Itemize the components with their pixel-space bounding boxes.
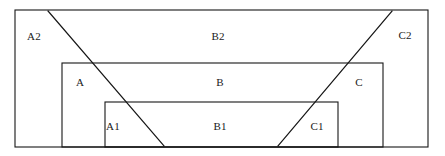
- right-diagonal-line: [278, 11, 392, 146]
- region-label-a1: A1: [106, 121, 120, 132]
- region-label-b: B: [216, 77, 224, 88]
- region-label-a: A: [76, 77, 84, 88]
- region-label-b2: B2: [211, 31, 224, 42]
- region-label-a2: A2: [27, 31, 41, 42]
- region-label-c2: C2: [398, 30, 411, 41]
- diagram-canvas: A2 B2 C2 A B C A1 B1 C1: [0, 0, 445, 156]
- region-label-b1: B1: [213, 121, 226, 132]
- region-label-c1: C1: [310, 121, 323, 132]
- region-label-c: C: [355, 77, 363, 88]
